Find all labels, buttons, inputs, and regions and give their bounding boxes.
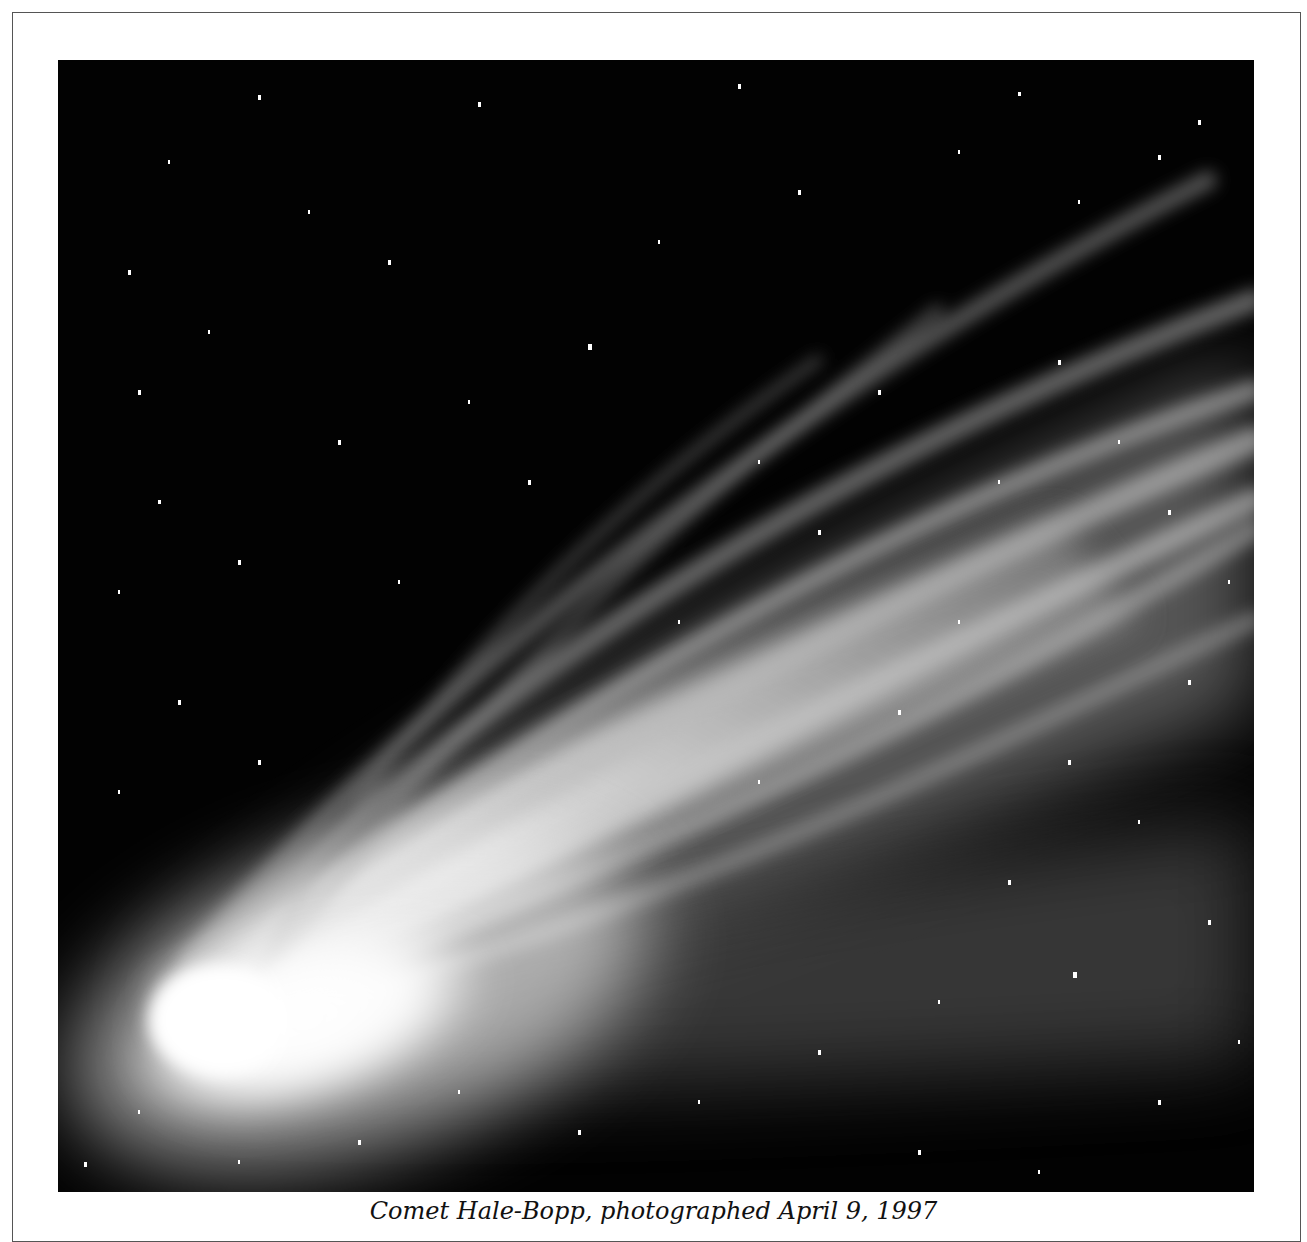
figure-caption: Comet Hale-Bopp, photographed April 9, 1…: [0, 1196, 1307, 1226]
comet-illustration: [58, 60, 1254, 1192]
comet-photo: [58, 60, 1254, 1192]
